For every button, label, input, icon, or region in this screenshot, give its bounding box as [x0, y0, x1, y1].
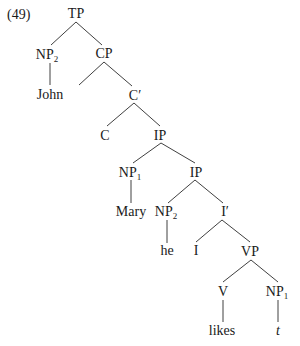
node-tp: TP [68, 6, 85, 21]
edge-iplow-np2 [168, 180, 195, 203]
edge-vp-v [223, 260, 251, 282]
edge-iplow-ibar [195, 180, 223, 203]
node-ip-lower: IP [190, 165, 203, 180]
tree-nodes: TP NP2 John CP C′ C IP NP1 Mary IP NP2 h… [36, 6, 288, 338]
node-np1-mid: NP1 [119, 165, 141, 182]
node-john: John [37, 87, 63, 102]
tree-edges [50, 22, 278, 322]
node-trace: t [276, 323, 281, 338]
edge-tp-cp [76, 22, 102, 45]
example-number: (49) [7, 7, 31, 23]
node-ip-upper: IP [154, 128, 167, 143]
node-i: I [194, 243, 199, 258]
edge-cp-spec [79, 62, 104, 85]
edge-cp-cbar [104, 62, 132, 86]
edge-ibar-vp [222, 220, 250, 242]
edge-ip-ip [161, 143, 195, 163]
node-vp: VP [241, 244, 259, 259]
node-he: he [160, 243, 173, 258]
syntax-tree: (49) TP [0, 0, 300, 346]
node-np2-top: NP2 [36, 47, 58, 64]
node-likes: likes [209, 323, 235, 338]
node-v: V [218, 284, 228, 299]
edge-cbar-ip [134, 103, 160, 126]
edge-ip-np1 [133, 143, 161, 163]
edge-tp-np2 [51, 22, 76, 45]
node-np1-obj: NP1 [266, 284, 288, 301]
node-np2-low: NP2 [155, 204, 177, 221]
node-mary: Mary [116, 204, 146, 219]
node-cp: CP [95, 46, 112, 61]
node-c: C [100, 128, 109, 143]
node-i-bar: I′ [221, 204, 229, 219]
edge-cbar-c [107, 103, 134, 126]
node-c-bar: C′ [129, 88, 141, 103]
edge-ibar-i [196, 220, 222, 242]
edge-vp-np1 [251, 260, 278, 282]
